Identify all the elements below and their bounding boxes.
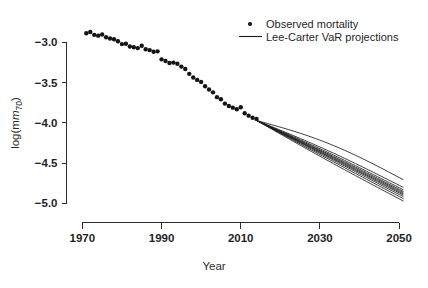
y-axis-ticks: −3.0−3.5−4.0−4.5−5.0: [35, 36, 67, 209]
projection-line: [257, 121, 404, 199]
observed-data-point: [203, 84, 207, 88]
observed-data-point: [246, 113, 250, 117]
observed-data-point: [199, 80, 203, 84]
x-tick-label: 2010: [228, 232, 254, 244]
observed-data-point: [132, 45, 136, 49]
observed-data-point: [159, 57, 163, 61]
x-tick-label: 2050: [386, 232, 412, 244]
observed-data-point: [242, 111, 246, 115]
observed-data-point: [96, 33, 100, 37]
y-axis: −3.0−3.5−4.0−4.5−5.0: [35, 36, 67, 209]
x-axis-ticks: 19701990201020302050: [70, 223, 412, 244]
observed-data-point: [219, 97, 223, 101]
x-axis: 19701990201020302050: [70, 223, 412, 244]
x-tick-label: 1970: [70, 232, 96, 244]
observed-data-point: [136, 46, 140, 50]
mortality-projection-chart: −3.0−3.5−4.0−4.5−5.0 1970199020102030205…: [0, 0, 428, 288]
observed-data-point: [155, 49, 159, 53]
y-tick-label: −3.5: [35, 77, 58, 89]
observed-data-point: [191, 75, 195, 79]
y-axis-title-subscript: 70: [14, 101, 24, 111]
observed-data-point: [187, 72, 191, 76]
y-axis-title: log(mm70): [9, 97, 24, 149]
chart-canvas: −3.0−3.5−4.0−4.5−5.0 1970199020102030205…: [0, 0, 428, 288]
y-tick-label: −4.5: [35, 157, 58, 169]
projection-lines-group: [257, 121, 404, 201]
observed-data-point: [88, 30, 92, 34]
observed-data-point: [235, 107, 239, 111]
observed-data-point: [239, 105, 243, 109]
legend-label-observed: Observed mortality: [266, 18, 359, 30]
y-tick-label: −5.0: [35, 197, 58, 209]
observed-data-point: [163, 59, 167, 63]
observed-data-point: [179, 64, 183, 68]
observed-data-point: [183, 67, 187, 71]
observed-data-point: [100, 32, 104, 36]
y-axis-title-group: log(mm70): [9, 97, 24, 149]
legend-point-marker: [248, 22, 252, 26]
chart-legend: Observed mortality Lee-Carter VaR projec…: [239, 18, 399, 43]
observed-data-point: [195, 78, 199, 82]
observed-data-point: [124, 41, 128, 45]
observed-data-point: [223, 101, 227, 105]
x-tick-label: 1990: [149, 232, 175, 244]
x-axis-title: Year: [202, 260, 225, 272]
y-tick-label: −4.0: [35, 117, 58, 129]
observed-data-point: [254, 117, 258, 121]
y-axis-title-variable: m: [9, 110, 21, 120]
observed-data-point: [231, 105, 235, 109]
observed-data-point: [120, 42, 124, 46]
observed-data-point: [92, 33, 96, 37]
x-tick-label: 2030: [307, 232, 333, 244]
observed-data-point: [207, 87, 211, 91]
observed-data-point: [167, 61, 171, 65]
observed-data-point: [108, 36, 112, 40]
observed-points-group: [84, 30, 259, 121]
observed-data-point: [147, 48, 151, 52]
observed-data-point: [140, 43, 144, 47]
observed-data-point: [104, 35, 108, 39]
observed-data-point: [143, 47, 147, 51]
observed-data-point: [211, 90, 215, 94]
y-axis-title-base: log(m: [9, 120, 21, 149]
observed-data-point: [227, 104, 231, 108]
observed-data-point: [175, 62, 179, 66]
observed-data-point: [84, 31, 88, 35]
y-tick-label: −3.0: [35, 36, 58, 48]
observed-data-point: [116, 39, 120, 43]
observed-data-point: [215, 95, 219, 99]
observed-data-point: [250, 115, 254, 119]
y-axis-title-close: ): [9, 97, 21, 101]
legend-label-projections: Lee-Carter VaR projections: [266, 31, 399, 43]
observed-data-point: [171, 60, 175, 64]
observed-data-point: [151, 50, 155, 54]
projection-line: [257, 121, 404, 201]
observed-data-point: [128, 44, 132, 48]
observed-data-point: [112, 37, 116, 41]
